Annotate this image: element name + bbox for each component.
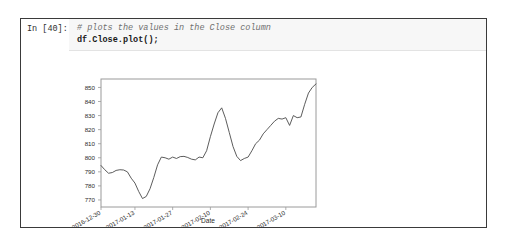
code-line-comment: # plots the values in the Close column xyxy=(77,23,271,33)
x-tick-label: 2016-12-30 xyxy=(71,209,102,227)
matplotlib-figure: 770780790800810820830840850 2016-12-3020… xyxy=(21,51,488,227)
y-tick-label: 820 xyxy=(85,126,96,133)
y-tick-label: 790 xyxy=(85,168,96,175)
line-chart-svg: 770780790800810820830840850 2016-12-3020… xyxy=(21,51,488,227)
y-tick-label: 850 xyxy=(85,84,96,91)
cell-output-area: 770780790800810820830840850 2016-12-3020… xyxy=(21,51,486,227)
x-tick-label: 2017-03-10 xyxy=(255,209,286,227)
x-axis-title: Date xyxy=(201,217,215,224)
cell-input-row: In [40]: # plots the values in the Close… xyxy=(21,19,486,51)
y-tick-label: 780 xyxy=(85,182,96,189)
y-tick-label: 840 xyxy=(85,98,96,105)
y-tick-label: 770 xyxy=(85,196,96,203)
y-tick-label: 810 xyxy=(85,140,96,147)
x-tick-label: 2017-02-24 xyxy=(218,209,249,227)
y-tick-label: 830 xyxy=(85,112,96,119)
y-axis-ticks: 770780790800810820830840850 xyxy=(85,84,101,204)
notebook-cell: In [40]: # plots the values in the Close… xyxy=(20,18,487,228)
code-editor[interactable]: # plots the values in the Close column d… xyxy=(69,19,486,51)
x-tick-label: 2017-01-13 xyxy=(105,209,136,227)
x-axis-ticks: 2016-12-302017-01-132017-01-272017-02-10… xyxy=(71,207,287,227)
code-line-statement: df.Close.plot(); xyxy=(77,35,159,45)
screenshot-root: In [40]: # plots the values in the Close… xyxy=(0,0,507,243)
y-tick-label: 800 xyxy=(85,154,96,161)
x-tick-label: 2017-01-27 xyxy=(142,209,173,227)
